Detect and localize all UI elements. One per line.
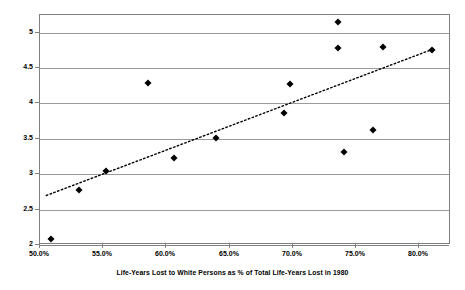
- x-axis-title: Life-Years Lost to White Persons as % of…: [0, 269, 465, 276]
- y-tick-mark: [35, 32, 39, 33]
- trendline: [40, 15, 451, 245]
- y-tick-mark: [35, 102, 39, 103]
- y-tick-label: 5: [29, 28, 33, 36]
- x-tick-mark: [102, 244, 103, 248]
- x-tick-mark: [229, 244, 230, 248]
- x-tick-mark: [355, 244, 356, 248]
- y-tick-mark: [35, 173, 39, 174]
- y-tick-label: 2: [29, 240, 33, 248]
- x-tick-mark: [292, 244, 293, 248]
- x-tick-mark: [39, 244, 40, 248]
- y-tick-mark: [35, 209, 39, 210]
- x-tick-label: 50.0%: [29, 250, 49, 257]
- x-tick-mark: [165, 244, 166, 248]
- y-tick-label: 2.5: [23, 205, 33, 213]
- x-tick-mark: [418, 244, 419, 248]
- x-tick-label: 55.0%: [92, 250, 112, 257]
- plot-area: [39, 14, 450, 244]
- y-tick-mark: [35, 138, 39, 139]
- y-tick-label: 3.5: [23, 134, 33, 142]
- x-tick-label: 70.0%: [282, 250, 302, 257]
- x-tick-label: 60.0%: [155, 250, 175, 257]
- y-tick-label: 4.5: [23, 63, 33, 71]
- x-tick-label: 80.0%: [408, 250, 428, 257]
- y-tick-label: 3: [29, 169, 33, 177]
- scatter-chart: Log of Public R&D Expenditure in 1982 22…: [0, 0, 465, 290]
- y-tick-mark: [35, 67, 39, 68]
- x-tick-label: 75.0%: [345, 250, 365, 257]
- x-tick-label: 65.0%: [219, 250, 239, 257]
- y-tick-label: 4: [29, 98, 33, 106]
